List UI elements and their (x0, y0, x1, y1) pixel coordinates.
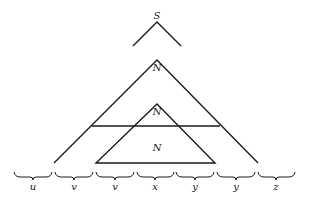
brace-z (258, 172, 295, 180)
outer-node-label: N (152, 62, 163, 73)
segment-label-z: z (272, 181, 279, 192)
brace-v2 (96, 172, 134, 180)
inner-node-label: N (152, 106, 163, 117)
segment-label-y2: y (232, 181, 239, 192)
brace-x (137, 172, 174, 180)
segment-label-u: u (30, 181, 36, 192)
parse-tree-diagram: S N N N u v v x y y z (0, 0, 313, 202)
brace-y2 (217, 172, 255, 180)
segment-label-y1: y (191, 181, 198, 192)
inner-triangle-label: N (152, 142, 163, 153)
segment-label-v2: v (112, 181, 118, 192)
segment-braces (14, 172, 295, 180)
root-label: S (154, 10, 161, 21)
brace-y1 (176, 172, 214, 180)
segment-label-v1: v (71, 181, 77, 192)
root-branches (133, 22, 181, 46)
brace-v1 (55, 172, 93, 180)
segment-label-x: x (152, 181, 158, 192)
brace-u (14, 172, 52, 180)
